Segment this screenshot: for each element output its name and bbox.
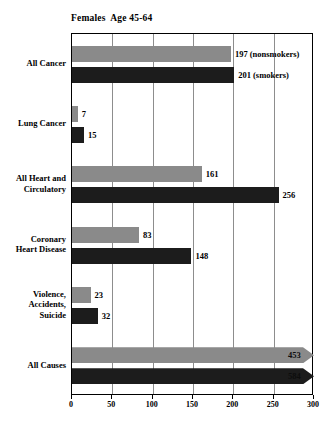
bar-nonsmokers[interactable] — [72, 46, 231, 62]
bar-nonsmokers[interactable] — [72, 287, 91, 303]
plot-area: 197 (nonsmokers)201 (smokers)71516125683… — [71, 33, 313, 395]
bar-value-label: 201 (smokers) — [238, 70, 289, 79]
bar-value-label: 453 — [288, 351, 301, 360]
bar-nonsmokers[interactable] — [72, 166, 202, 182]
bar-nonsmokers[interactable] — [72, 347, 314, 363]
x-tick-mark — [313, 395, 314, 399]
bar-smokers[interactable] — [72, 67, 234, 83]
bar-value-label: 148 — [195, 251, 208, 260]
bar-slot: 161 — [72, 166, 312, 182]
category-label: Violence, Accidents, Suicide — [0, 289, 66, 321]
bar-value-label: 7 — [82, 110, 86, 119]
bar-group: 715 — [72, 106, 312, 143]
bar-nonsmokers[interactable] — [72, 106, 78, 122]
x-tick-mark — [192, 395, 193, 399]
x-tick-label: 0 — [69, 400, 73, 409]
bar-group: 197 (nonsmokers)201 (smokers) — [72, 46, 312, 83]
x-tick-mark — [273, 395, 274, 399]
x-tick-label: 50 — [107, 400, 115, 409]
bar-slot: 23 — [72, 287, 312, 303]
gridline — [153, 34, 154, 394]
x-tick-mark — [111, 395, 112, 399]
bar-smokers[interactable] — [72, 127, 84, 143]
bar-value-label: 83 — [143, 230, 152, 239]
bar-slot: 7 — [72, 106, 312, 122]
gridline — [274, 34, 275, 394]
x-axis: 050100150200250300 — [71, 395, 313, 400]
category-label: Coronary Heart Disease — [0, 234, 66, 255]
bar-slot: 15 — [72, 127, 312, 143]
bar-slot: 83 — [72, 227, 312, 243]
category-label: Lung Cancer — [0, 118, 66, 129]
x-tick-label: 100 — [146, 400, 158, 409]
bar-slot: 201 (smokers) — [72, 67, 312, 83]
bar-smokers[interactable] — [72, 308, 98, 324]
bar-slot: 32 — [72, 308, 312, 324]
bar-value-label: 256 — [283, 191, 296, 200]
bar-group: 161256 — [72, 166, 312, 203]
gridline — [233, 34, 234, 394]
bar-slot: 256 — [72, 187, 312, 203]
category-label: All Cancer — [0, 58, 66, 69]
bar-slot: 197 (nonsmokers) — [72, 46, 312, 62]
bar-value-label: 197 (nonsmokers) — [235, 49, 299, 58]
bar-value-label: 161 — [206, 170, 219, 179]
x-tick-mark — [152, 395, 153, 399]
category-label: All Heart and Circulatory — [0, 173, 66, 194]
x-tick-label: 200 — [226, 400, 238, 409]
bar-slot: 148 — [72, 248, 312, 264]
bar-chart: Females Age 45-64 197 (nonsmokers)201 (s… — [0, 0, 326, 421]
bar-smokers[interactable] — [72, 248, 191, 264]
bar-slot: 453 — [72, 347, 312, 363]
bar-smokers[interactable] — [72, 187, 279, 203]
bar-value-label: 32 — [102, 312, 111, 321]
gridline — [193, 34, 194, 394]
bar-nonsmokers[interactable] — [72, 227, 139, 243]
bar-smokers[interactable] — [72, 368, 314, 384]
bar-value-label: 15 — [88, 131, 97, 140]
bar-value-label: 23 — [95, 291, 104, 300]
x-tick-label: 150 — [186, 400, 198, 409]
chart-title: Females Age 45-64 — [71, 13, 152, 23]
bar-group: 453584 — [72, 347, 312, 384]
bar-value-label: 584 — [288, 372, 301, 381]
gridlines — [72, 34, 312, 394]
x-tick-label: 300 — [307, 400, 319, 409]
bar-group: 2332 — [72, 287, 312, 324]
x-tick-mark — [71, 395, 72, 399]
bar-slot: 584 — [72, 368, 312, 384]
x-tick-label: 250 — [267, 400, 279, 409]
x-tick-mark — [232, 395, 233, 399]
gridline — [112, 34, 113, 394]
bar-group: 83148 — [72, 227, 312, 264]
category-label: All Causes — [0, 360, 66, 371]
